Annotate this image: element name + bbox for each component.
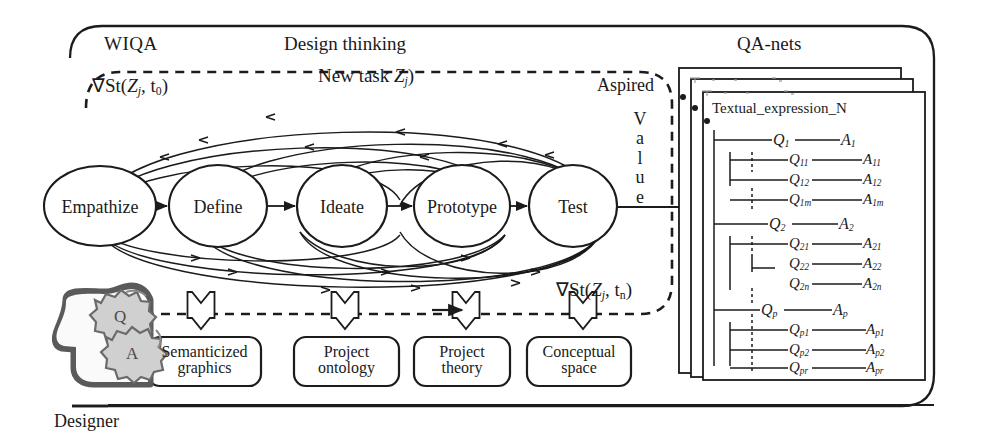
resource-box-project-theory[interactable]: Projecttheory (414, 344, 510, 377)
qa-answer-9[interactable]: Ap1 (866, 321, 884, 338)
stage-label-prototype[interactable]: Prototype (414, 197, 510, 218)
qa-question-10[interactable]: Qp2 (789, 341, 809, 358)
qa-question-5[interactable]: Q21 (789, 235, 809, 252)
frame-label-wiqa: WIQA (104, 34, 158, 53)
frame-label-design-thinking: Design thinking (284, 34, 406, 53)
qa-answer-3[interactable]: A1m (863, 191, 884, 208)
qa-question-9[interactable]: Qp1 (789, 321, 809, 338)
qa-question-3[interactable]: Q1m (789, 191, 811, 208)
qa-answer-5[interactable]: A21 (863, 235, 881, 252)
qa-answer-0[interactable]: A1 (841, 131, 856, 149)
qa-answer-7[interactable]: A2n (863, 275, 881, 292)
stage-label-test[interactable]: Test (529, 197, 617, 218)
stage-label-define[interactable]: Define (169, 197, 267, 218)
qa-card-title: Textual_expression_N (712, 101, 847, 116)
annotation-aspired: Aspired (597, 76, 654, 94)
resource-box-conceptual-space[interactable]: Conceptualspace (527, 344, 631, 377)
qa-question-8[interactable]: Qp (761, 301, 778, 319)
qa-question-6[interactable]: Q22 (789, 255, 809, 272)
qa-answer-4[interactable]: A2 (839, 215, 854, 233)
resource-double-arrows (188, 292, 597, 329)
qa-answer-1[interactable]: A11 (863, 151, 881, 168)
resource-box-semanticized-graphics[interactable]: Semanticizedgraphics (148, 344, 261, 377)
designer-caption: Designer (54, 412, 119, 430)
qa-question-0[interactable]: Q1 (773, 131, 790, 149)
qa-question-11[interactable]: Qpr (789, 359, 808, 376)
gear-label-a: A (126, 345, 138, 362)
annotation-value-vertical: V a l u e (629, 110, 651, 207)
diagram-vector-layer (0, 0, 984, 445)
qa-card-front (703, 92, 925, 380)
qa-question-4[interactable]: Q2 (769, 215, 786, 233)
annotation-grad-end: ∇St(Zj, tn) (556, 280, 632, 301)
qa-answer-10[interactable]: Ap2 (866, 341, 884, 358)
resource-box-project-ontology[interactable]: Projectontology (294, 344, 399, 377)
qa-question-2[interactable]: Q12 (789, 171, 809, 188)
annotation-grad-start: ∇St(Zj, t0) (92, 76, 168, 97)
qa-answer-6[interactable]: A22 (863, 255, 881, 272)
gear-label-q: Q (114, 308, 126, 325)
stage-label-ideate[interactable]: Ideate (297, 197, 387, 218)
qa-question-7[interactable]: Q2n (789, 275, 809, 292)
diagram-canvas: WIQA Design thinking QA-nets Textual_exp… (0, 0, 984, 445)
frame-label-qa-nets: QA-nets (737, 34, 801, 53)
qa-answer-2[interactable]: A12 (863, 171, 881, 188)
qa-answer-11[interactable]: Apr (866, 359, 883, 376)
qa-question-1[interactable]: Q11 (789, 151, 808, 168)
qa-answer-8[interactable]: Ap (833, 301, 848, 319)
annotation-new-task: New task Zj) (318, 66, 414, 87)
stage-label-empathize[interactable]: Empathize (44, 197, 156, 218)
